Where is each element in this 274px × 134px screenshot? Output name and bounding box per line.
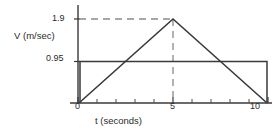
y-ticks: [74, 19, 80, 62]
velocity-time-chart: V (m/sec) t (seconds) 1.9 0.95 0 5 10: [0, 0, 274, 134]
x-tick-label-10: 10: [250, 101, 260, 111]
y-tick-label-1.9: 1.9: [52, 13, 65, 23]
x-tick-label-0: 0: [75, 101, 80, 111]
x-tick-label-5: 5: [170, 101, 175, 111]
y-tick-label-0.95: 0.95: [46, 53, 64, 63]
plot-area: [0, 0, 274, 134]
y-axis-title: V (m/sec): [14, 31, 55, 41]
x-axis-title: t (seconds): [95, 116, 142, 126]
